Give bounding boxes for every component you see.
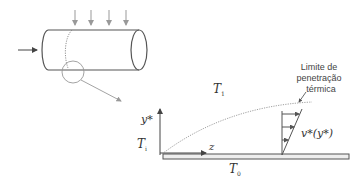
label-z-axis: z xyxy=(208,141,215,152)
thermal-penetration-curve xyxy=(162,102,312,154)
annotation-line-1: Limite de xyxy=(301,62,338,72)
detail-circle xyxy=(62,61,84,83)
label-t1: T1 xyxy=(213,82,225,97)
heat-flux-arrows xyxy=(75,10,126,25)
label-ti: Ti xyxy=(137,137,147,152)
annotation-line-2: penetração xyxy=(296,73,341,83)
velocity-profile xyxy=(282,109,302,155)
detail-leader-arrow xyxy=(81,80,121,101)
label-velocity-profile: v*(y*) xyxy=(301,127,333,140)
label-t0: T0 xyxy=(229,162,241,177)
heat-transfer-diagram: T1 Ti T0 y* z v*(y*) Limite de penetraçã… xyxy=(0,0,360,179)
label-y-axis: y* xyxy=(140,113,153,126)
wall-plate xyxy=(163,154,349,159)
annotation-line-3: térmica xyxy=(306,84,336,94)
annotation-leader-arrow xyxy=(299,92,306,102)
cylinder xyxy=(42,30,147,70)
